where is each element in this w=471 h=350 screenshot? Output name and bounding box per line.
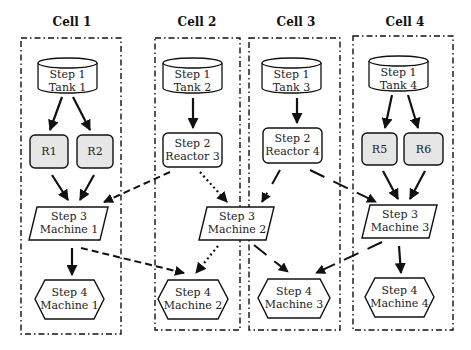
r1-label: R1 — [30, 145, 68, 158]
step4-machine2-name: Machine 2 — [158, 299, 228, 312]
reactor-3-step: Step 2 — [163, 137, 222, 150]
step4-machine1-name: Machine 1 — [35, 299, 104, 312]
step3-machine2-step: Step 3 — [200, 210, 274, 223]
step4-machine1: Step 4 Machine 1 — [35, 286, 104, 312]
tank-2-step: Step 1 — [163, 68, 222, 81]
step3-machine3-step: Step 3 — [363, 208, 437, 221]
step4-machine2: Step 4 Machine 2 — [158, 286, 228, 312]
tank-4-name: Tank 4 — [369, 79, 428, 92]
edge-reactor4-s3m3 — [310, 170, 376, 202]
cell-2-label: Cell 2 — [167, 15, 227, 29]
cell-1-label: Cell 1 — [42, 15, 102, 29]
edge-tank1-r2 — [73, 97, 90, 130]
edge-r5-s3m3 — [383, 171, 398, 199]
step4-machine4-name: Machine 4 — [365, 297, 434, 310]
edge-reactor3-s3m2 — [200, 172, 227, 202]
edge-s3m2-s4m3 — [254, 245, 288, 272]
reactor-4-name: Reactor 4 — [263, 145, 322, 158]
step4-machine1-step: Step 4 — [35, 286, 104, 299]
edge-s3m3-s4m4 — [399, 246, 401, 273]
step3-machine3-name: Machine 3 — [363, 221, 437, 234]
step3-machine2: Step 3 Machine 2 — [200, 210, 274, 236]
r2-label: R2 — [77, 145, 113, 158]
tank-3-step: Step 1 — [262, 68, 321, 81]
tank-2-name: Tank 2 — [163, 81, 222, 94]
edge-tank4-r6 — [408, 95, 418, 128]
tank-3: Step 1 Tank 3 — [262, 68, 321, 94]
step4-machine3-name: Machine 3 — [258, 298, 330, 311]
reactor-4-step: Step 2 — [263, 132, 322, 145]
step4-machine4: Step 4 Machine 4 — [365, 284, 434, 310]
edge-tank4-r5 — [385, 95, 392, 128]
reactor-3-name: Reactor 3 — [163, 150, 222, 163]
tank-3-name: Tank 3 — [262, 81, 321, 94]
cell-4-label: Cell 4 — [375, 15, 435, 29]
step3-machine2-name: Machine 2 — [200, 223, 274, 236]
step3-machine3: Step 3 Machine 3 — [363, 208, 437, 234]
edge-s3m1-s4m2 — [81, 248, 184, 273]
edge-r2-s3m1 — [80, 175, 94, 200]
edge-s3m3-s4m3 — [316, 242, 382, 273]
edge-s3m2-s4m2 — [196, 246, 218, 273]
step3-machine1-step: Step 3 — [32, 210, 106, 223]
tank-2: Step 1 Tank 2 — [163, 68, 222, 94]
edge-reactor3-s3m1 — [104, 172, 170, 202]
r6-label: R6 — [404, 143, 443, 156]
tank-1-step: Step 1 — [38, 68, 97, 81]
reactor-3: Step 2 Reactor 3 — [163, 137, 222, 163]
step4-machine4-step: Step 4 — [365, 284, 434, 297]
step3-machine1-name: Machine 1 — [32, 223, 106, 236]
step4-machine3-step: Step 4 — [258, 285, 330, 298]
step4-machine3: Step 4 Machine 3 — [258, 285, 330, 311]
tank-4: Step 1 Tank 4 — [369, 66, 428, 92]
reactor-4: Step 2 Reactor 4 — [263, 132, 322, 158]
edge-tank1-r1 — [50, 97, 62, 130]
step3-machine1: Step 3 Machine 1 — [32, 210, 106, 236]
edge-r6-s3m3 — [410, 171, 425, 199]
cell-3-label: Cell 3 — [266, 15, 326, 29]
r5-label: R5 — [362, 143, 397, 156]
step4-machine2-step: Step 4 — [158, 286, 228, 299]
tank-4-step: Step 1 — [369, 66, 428, 79]
tank-1: Step 1 Tank 1 — [38, 68, 97, 94]
tank-1-name: Tank 1 — [38, 81, 97, 94]
edge-r1-s3m1 — [52, 175, 68, 200]
edge-reactor4-s3m2 — [262, 170, 280, 202]
